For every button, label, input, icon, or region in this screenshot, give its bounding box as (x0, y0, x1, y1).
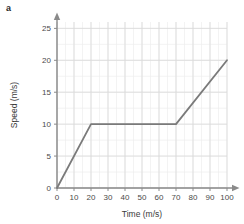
y-tick-labels: 0510152025 (42, 24, 51, 193)
x-tick-label: 60 (155, 193, 164, 202)
x-tick-label: 100 (220, 193, 234, 202)
x-tick-label: 0 (55, 193, 60, 202)
x-tick-label: 50 (138, 193, 147, 202)
x-tick-labels: 0102030405060708090100 (55, 193, 234, 202)
y-tick-label: 25 (42, 24, 51, 33)
y-tick-label: 10 (42, 120, 51, 129)
x-tick-label: 10 (70, 193, 79, 202)
y-tick-label: 0 (47, 184, 52, 193)
x-tick-label: 20 (87, 193, 96, 202)
speed-time-chart: 0102030405060708090100 0510152025 Time (… (0, 0, 244, 224)
axes (54, 13, 240, 192)
x-tick-label: 30 (104, 193, 113, 202)
y-tick-label: 15 (42, 88, 51, 97)
axis-ticks (54, 28, 227, 191)
x-tick-label: 80 (189, 193, 198, 202)
y-tick-label: 20 (42, 56, 51, 65)
x-tick-label: 40 (121, 193, 130, 202)
x-axis-title: Time (m/s) (122, 209, 162, 219)
figure-container: a 0102030405060708090100 0510152025 Time… (0, 0, 244, 224)
x-tick-label: 70 (172, 193, 181, 202)
y-tick-label: 5 (47, 152, 52, 161)
y-axis-title: Speed (m/s) (9, 82, 19, 128)
x-tick-label: 90 (206, 193, 215, 202)
